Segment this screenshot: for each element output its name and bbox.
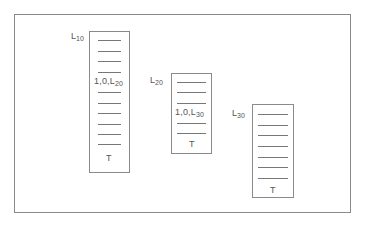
- row-line: [177, 82, 206, 83]
- table-l10: 1,0,L20 T: [89, 31, 130, 173]
- entry-sub: 30: [196, 111, 204, 118]
- terminator: T: [106, 153, 112, 163]
- row-line: [258, 178, 288, 179]
- row-line: [177, 92, 206, 93]
- table-l30: T: [252, 104, 294, 198]
- row-line: [98, 103, 121, 104]
- row-line: [98, 124, 121, 125]
- table-label-l30: L30: [232, 108, 245, 119]
- row-line: [98, 92, 121, 93]
- label-sub: 10: [76, 35, 84, 42]
- row-line: [258, 167, 288, 168]
- row-line: [258, 135, 288, 136]
- label-sub: 20: [155, 79, 163, 86]
- row-line: [258, 157, 288, 158]
- terminator: T: [270, 185, 276, 195]
- terminator: T: [189, 139, 195, 149]
- row-line: [98, 113, 121, 114]
- row-line: [177, 133, 206, 134]
- entry-pointer-l30: 1,0,L30: [175, 107, 204, 118]
- row-line: [98, 40, 121, 41]
- entry-main: 1,0,L: [175, 107, 196, 117]
- entry-pointer-l20: 1,0,L20: [94, 76, 123, 87]
- row-line: [98, 72, 121, 73]
- row-line: [258, 146, 288, 147]
- row-line: [98, 144, 121, 145]
- row-line: [177, 103, 206, 104]
- row-line: [98, 61, 121, 62]
- row-line: [98, 134, 121, 135]
- label-sub: 30: [237, 112, 245, 119]
- table-label-l10: L10: [71, 31, 84, 42]
- entry-main: 1,0,L: [94, 76, 115, 86]
- row-line: [258, 125, 288, 126]
- row-line: [258, 114, 288, 115]
- row-line: [98, 51, 121, 52]
- entry-sub: 20: [115, 80, 123, 87]
- table-label-l20: L20: [150, 75, 163, 86]
- row-line: [177, 123, 206, 124]
- table-l20: 1,0,L30 T: [171, 73, 212, 154]
